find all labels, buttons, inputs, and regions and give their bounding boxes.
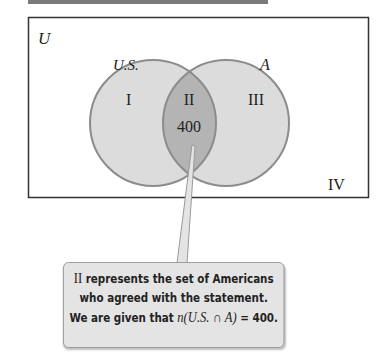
region-iii-label: III xyxy=(248,91,264,108)
callout-text: represents the set of Americans xyxy=(82,272,274,286)
set-notation: n(U.S. ∩ A) xyxy=(177,310,236,325)
region-ii-value: 400 xyxy=(177,118,201,135)
region-iv-label: IV xyxy=(328,176,345,193)
region-ii-label: II xyxy=(184,91,195,108)
set-us-label: U.S. xyxy=(113,57,139,73)
callout-line-3: We are given that n(U.S. ∩ A) = 400. xyxy=(64,308,284,328)
callout-line-1: II represents the set of Americans xyxy=(64,269,284,289)
callout-text: We are given that xyxy=(69,311,177,325)
callout-line-2: who agreed with the statement. xyxy=(64,289,284,308)
roman-numeral-ii: II xyxy=(74,271,82,286)
explanation-callout: II represents the set of Americans who a… xyxy=(63,262,284,348)
set-a-label: A xyxy=(259,56,270,73)
callout-text: = 400. xyxy=(237,311,278,325)
region-i-label: I xyxy=(126,91,131,108)
universe-label: U xyxy=(38,29,52,48)
